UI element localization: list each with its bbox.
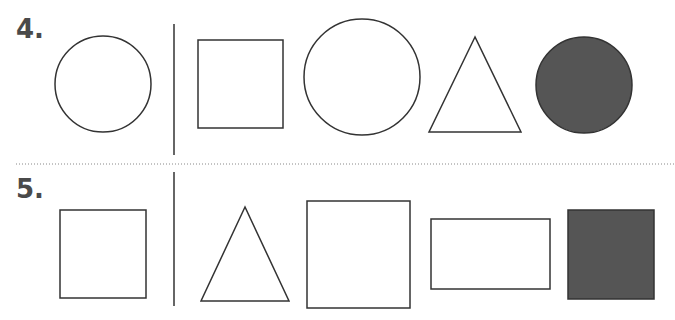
problem-4-choice-triangle[interactable] [429,37,521,132]
problem-4-choice-square[interactable] [198,40,283,128]
worksheet-shapes [0,0,675,320]
problem-5-choice-triangle[interactable] [201,207,289,301]
problem-5-choice-square[interactable] [307,201,410,308]
problem-5-choice-rectangle[interactable] [431,219,550,289]
problem-5-choice-filled-square[interactable] [568,210,654,299]
problem-4-choice-circle[interactable] [304,19,420,135]
problem-4-example-circle [55,36,151,132]
problem-4-choice-filled-circle[interactable] [536,37,632,133]
problem-5-example-square [60,210,146,298]
